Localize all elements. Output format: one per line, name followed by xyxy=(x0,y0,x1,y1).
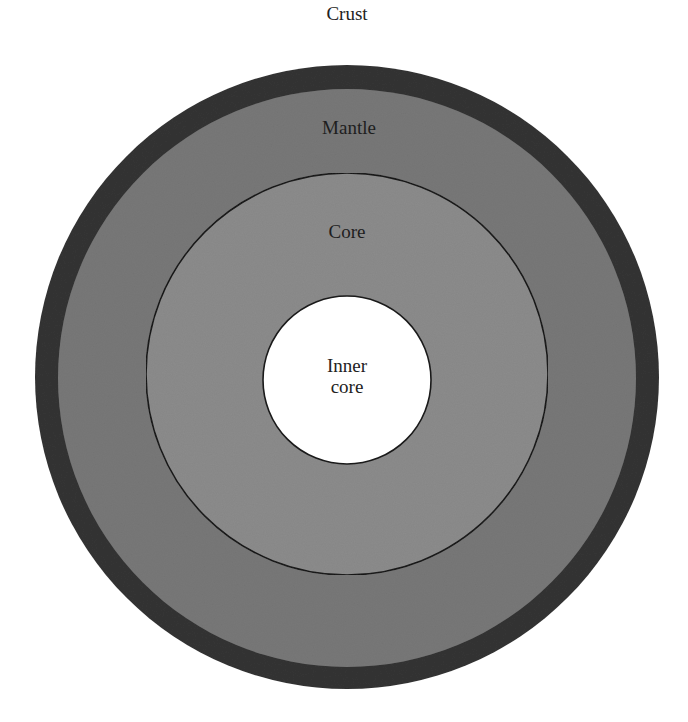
crust-label: Crust xyxy=(326,4,367,25)
earth-layers-diagram: Crust Mantle Core Inner core xyxy=(0,0,688,722)
inner-core-label-line1: Inner xyxy=(307,355,387,376)
core-label: Core xyxy=(329,222,366,243)
inner-core-label-line2: core xyxy=(307,376,387,397)
inner-core-label: Inner core xyxy=(307,355,387,398)
mantle-label: Mantle xyxy=(322,118,376,139)
